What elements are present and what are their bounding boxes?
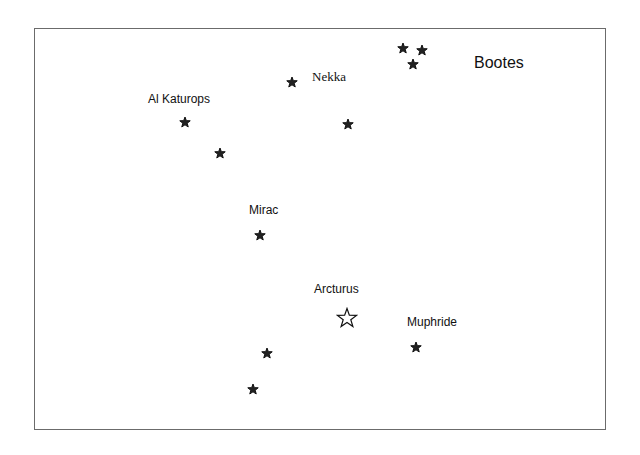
star-icon-al-katurops — [179, 114, 191, 126]
star-icon-trio-3 — [407, 56, 419, 68]
star-icon-unnamed-1 — [214, 145, 226, 157]
star-icon-muphride — [410, 339, 422, 351]
star-icon-unnamed-4 — [247, 381, 259, 393]
star-label-al-katurops: Al Katurops — [148, 92, 210, 106]
star-icon-nekka — [286, 74, 298, 86]
star-icon-unnamed-3 — [261, 345, 273, 357]
star-icon-unnamed-2 — [342, 116, 354, 128]
constellation-title: Bootes — [474, 54, 524, 72]
star-icon-trio-2 — [416, 42, 428, 54]
star-label-nekka: Nekka — [312, 69, 346, 85]
star-icon-mirac — [254, 227, 266, 239]
star-icon-arcturus — [336, 307, 358, 329]
star-label-muphride: Muphride — [407, 315, 457, 329]
star-label-arcturus: Arcturus — [314, 282, 359, 296]
diagram-frame — [34, 28, 606, 430]
star-label-mirac: Mirac — [249, 203, 278, 217]
star-icon-trio-1 — [397, 40, 409, 52]
